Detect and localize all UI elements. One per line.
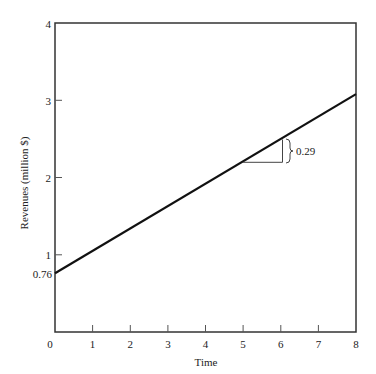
slope-label: 0.29 [296, 145, 316, 157]
x-tick-5: 5 [240, 338, 246, 350]
brace-icon [286, 139, 293, 163]
y-tick-2: 2 [46, 172, 52, 184]
y-axis-tick-labels: 1 2 3 4 0.76 [33, 18, 53, 280]
y-tick-4: 4 [46, 18, 52, 30]
x-tick-7: 7 [316, 338, 322, 350]
x-tick-8: 8 [353, 338, 359, 350]
x-axis-ticks [93, 325, 319, 332]
x-tick-3: 3 [165, 338, 171, 350]
y-axis-ticks [55, 100, 62, 255]
x-tick-4: 4 [203, 338, 209, 350]
x-tick-1: 1 [90, 338, 96, 350]
x-tick-6: 6 [278, 338, 284, 350]
y-intercept-label: 0.76 [33, 268, 53, 280]
x-tick-0: 0 [47, 338, 53, 350]
revenue-chart: 0 1 2 3 4 5 6 7 8 1 2 3 4 0.76 Time Reve… [0, 0, 376, 374]
plot-frame [55, 23, 356, 332]
x-axis-tick-labels: 0 1 2 3 4 5 6 7 8 [47, 338, 359, 350]
y-axis-label: Revenues (million $) [18, 136, 31, 229]
x-axis-label: Time [195, 356, 218, 368]
y-tick-1: 1 [46, 249, 52, 261]
x-tick-2: 2 [128, 338, 134, 350]
revenue-line [55, 94, 356, 273]
y-tick-3: 3 [46, 95, 52, 107]
